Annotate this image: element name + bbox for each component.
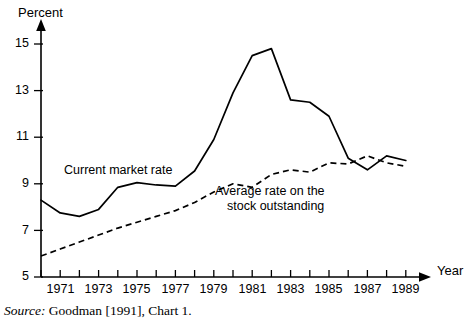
source-text: Goodman [1991], Chart 1. [45,303,191,318]
source-note: Source: Goodman [1991], Chart 1. [4,303,192,319]
y-tick-label-5: 5 [9,270,29,283]
y-tick-label-9: 9 [9,177,29,190]
y-axis-arrowhead [36,19,46,31]
y-tick-label-11: 11 [9,130,29,143]
annotation-current-market-rate: Current market rate [64,163,172,178]
annotation-average-rate-stock-outstanding: Average rate on the stock outstanding [215,184,325,214]
annotation-average-rate-line2: stock outstanding [227,199,325,214]
x-axis-ticks [41,270,406,277]
source-prefix: Source: [4,303,45,318]
x-axis-arrowhead [419,272,431,282]
chart-figure: Percent Year 15 13 11 9 7 5 1971 1973 19… [0,0,466,326]
y-tick-label-7: 7 [9,224,29,237]
x-tick-label-1989: 1989 [383,283,428,296]
annotation-average-rate-line1: Average rate on the [215,184,325,199]
y-tick-label-15: 15 [9,37,29,50]
y-axis-title: Percent [18,6,63,19]
x-axis-title: Year [437,264,463,277]
y-tick-label-13: 13 [9,84,29,97]
